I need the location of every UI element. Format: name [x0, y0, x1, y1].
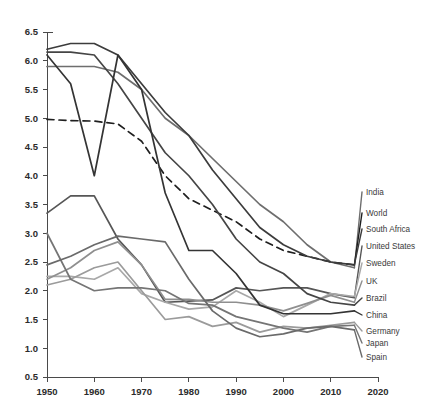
x-tick-label: 2000: [273, 386, 294, 397]
legend-label-japan[interactable]: Japan: [366, 339, 389, 348]
y-tick-label: 6.5: [25, 26, 39, 37]
y-tick-label: 5.5: [25, 84, 39, 95]
x-axis: 19501960197019801990200020102020: [36, 377, 388, 397]
legend-label-spain[interactable]: Spain: [366, 353, 387, 362]
x-tick-label: 1970: [131, 386, 152, 397]
y-axis: 0.51.01.52.02.53.03.54.04.55.05.56.06.5: [25, 26, 53, 382]
y-tick-label: 1.0: [25, 343, 38, 354]
legend-label-world[interactable]: World: [366, 209, 388, 218]
series-line-sweden: [47, 268, 354, 317]
legend-leader-lines: [354, 192, 362, 357]
legend-label-germany[interactable]: Germany: [366, 327, 401, 336]
series-line-south-africa: [47, 44, 354, 265]
series-lines: [47, 44, 354, 337]
y-tick-label: 6.0: [25, 55, 38, 66]
series-line-germany: [47, 262, 354, 332]
legend-label-china[interactable]: China: [366, 311, 388, 320]
x-tick-label: 2020: [367, 386, 388, 397]
y-tick-label: 4.5: [25, 141, 39, 152]
line-chart-plot: 0.51.01.52.02.53.03.54.04.55.05.56.06.5 …: [0, 0, 432, 420]
y-tick-label: 1.5: [25, 314, 39, 325]
series-line-japan: [47, 233, 354, 332]
legend-label-brazil[interactable]: Brazil: [366, 294, 387, 303]
legend-label-india[interactable]: India: [366, 188, 384, 197]
x-tick-label: 1960: [84, 386, 105, 397]
y-tick-label: 2.5: [25, 256, 39, 267]
legend-label-uk[interactable]: UK: [366, 277, 378, 286]
x-tick-label: 1950: [36, 386, 57, 397]
legend: IndiaWorldSouth AfricaUnited StatesSwede…: [366, 188, 415, 362]
series-line-china: [47, 55, 354, 314]
y-tick-label: 2.0: [25, 285, 38, 296]
series-line-india: [47, 67, 354, 268]
series-line-uk: [47, 242, 354, 311]
series-line-brazil: [47, 52, 354, 305]
y-tick-label: 4.0: [25, 170, 38, 181]
y-tick-label: 3.0: [25, 228, 38, 239]
legend-label-sweden[interactable]: Sweden: [366, 259, 396, 268]
x-tick-label: 1990: [226, 386, 247, 397]
y-tick-label: 3.5: [25, 199, 39, 210]
x-tick-label: 2010: [320, 386, 341, 397]
chart-container: 0.51.01.52.02.53.03.54.04.55.05.56.06.5 …: [0, 0, 432, 420]
y-tick-label: 0.5: [25, 371, 39, 382]
series-line-united-states: [47, 196, 354, 302]
legend-leader-china: [354, 311, 362, 315]
legend-label-south-africa[interactable]: South Africa: [366, 225, 411, 234]
x-tick-label: 1980: [178, 386, 199, 397]
y-tick-label: 5.0: [25, 113, 38, 124]
series-line-world: [47, 119, 354, 264]
legend-label-united-states[interactable]: United States: [366, 242, 415, 251]
